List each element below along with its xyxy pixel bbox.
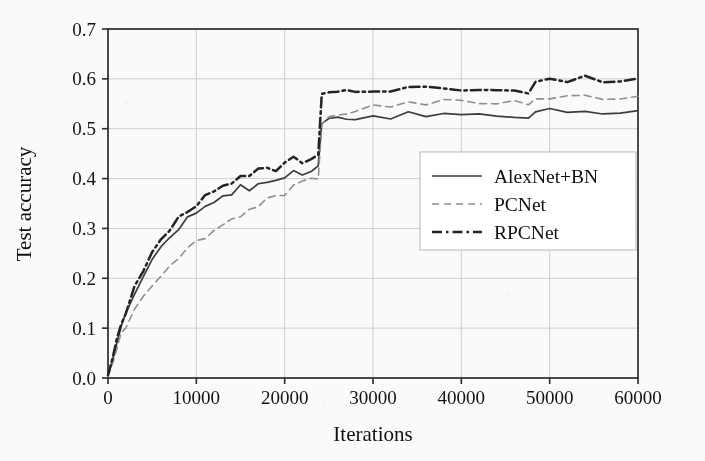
y-tick-label: 0.5 bbox=[72, 118, 96, 139]
y-axis-title: Test accuracy bbox=[12, 146, 36, 261]
x-tick-label: 60000 bbox=[614, 387, 662, 408]
chart-legend: AlexNet+BNPCNetRPCNet bbox=[420, 152, 636, 250]
y-tick-label: 0.6 bbox=[72, 68, 96, 89]
x-axis-title: Iterations bbox=[333, 422, 412, 446]
x-tick-label: 40000 bbox=[438, 387, 486, 408]
legend-label-rpcnet: RPCNet bbox=[494, 222, 560, 243]
x-tick-label: 0 bbox=[103, 387, 113, 408]
y-tick-label: 0.1 bbox=[72, 318, 96, 339]
x-tick-label: 20000 bbox=[261, 387, 309, 408]
y-tick-label: 0.0 bbox=[72, 368, 96, 389]
legend-label-alexnet-bn: AlexNet+BN bbox=[494, 166, 598, 187]
y-tick-label: 0.2 bbox=[72, 268, 96, 289]
x-tick-label: 50000 bbox=[526, 387, 574, 408]
x-tick-label: 10000 bbox=[173, 387, 221, 408]
legend-label-pcnet: PCNet bbox=[494, 194, 547, 215]
y-tick-label: 0.3 bbox=[72, 218, 96, 239]
chart-figure: 0100002000030000400005000060000 0.00.10.… bbox=[0, 0, 705, 461]
y-tick-label: 0.4 bbox=[72, 168, 96, 189]
test-accuracy-line-chart: 0100002000030000400005000060000 0.00.10.… bbox=[0, 0, 705, 461]
y-tick-label: 0.7 bbox=[72, 19, 96, 40]
x-tick-label: 30000 bbox=[349, 387, 397, 408]
